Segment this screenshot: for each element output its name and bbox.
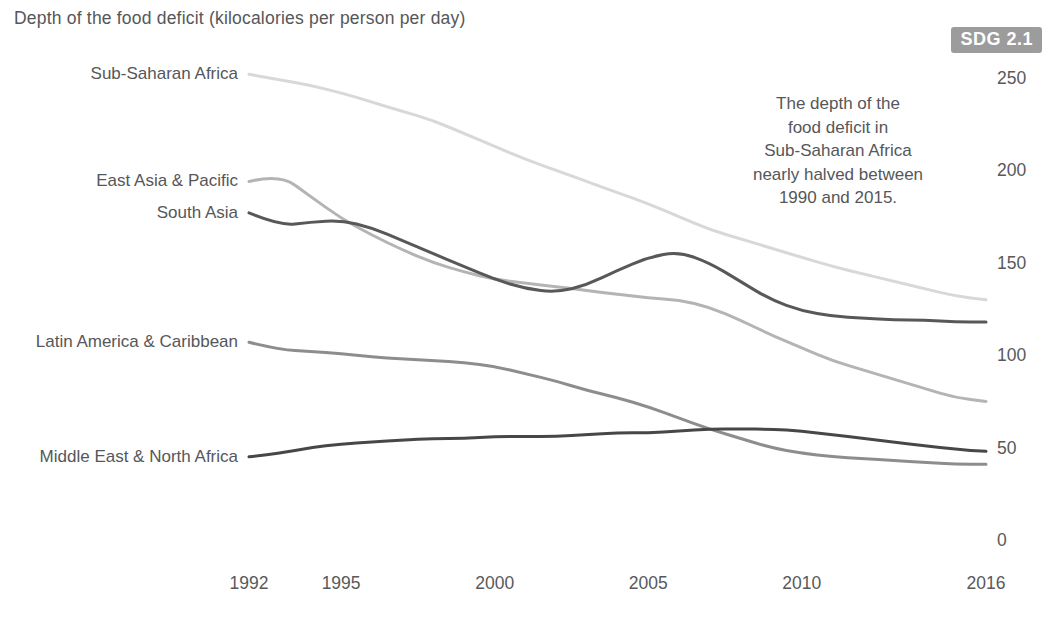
chart-annotation: The depth of the food deficit in Sub-Sah…	[738, 92, 938, 210]
series-label-east-asia-pacific: East Asia & Pacific	[0, 170, 238, 192]
series-label-latin-america-caribbean: Latin America & Caribbean	[0, 331, 238, 353]
sdg-badge: SDG 2.1	[951, 27, 1042, 53]
y-tick-label: 250	[997, 68, 1026, 88]
x-tick-label: 1995	[322, 573, 361, 593]
annotation-line: Sub-Saharan Africa	[738, 139, 938, 163]
x-tick-label: 2010	[782, 573, 821, 593]
annotation-line: 1990 and 2015.	[738, 186, 938, 210]
x-tick-label: 1992	[230, 573, 269, 593]
annotation-line: food deficit in	[738, 116, 938, 140]
y-tick-label: 200	[997, 160, 1026, 180]
series-label-middle-east-north-africa: Middle East & North Africa	[0, 446, 238, 468]
line-middle-east-and-north-africa	[249, 429, 986, 457]
annotation-line: The depth of the	[738, 92, 938, 116]
line-latin-america-and-caribbean	[249, 342, 986, 464]
x-tick-label: 2016	[967, 573, 1006, 593]
y-tick-label: 100	[997, 345, 1026, 365]
chart-title: Depth of the food deficit (kilocalories …	[14, 8, 465, 29]
x-tick-label: 2005	[629, 573, 668, 593]
series-label-south-asia: South Asia	[0, 202, 238, 224]
y-tick-label: 150	[997, 253, 1026, 273]
line-east-asia-and-pacific	[249, 179, 986, 402]
annotation-line: nearly halved between	[738, 163, 938, 187]
y-tick-label: 0	[997, 530, 1007, 550]
series-label-sub-saharan-africa: Sub-Saharan Africa	[0, 63, 238, 85]
food-deficit-chart: Depth of the food deficit (kilocalories …	[0, 0, 1048, 619]
y-tick-label: 50	[997, 438, 1017, 458]
x-tick-label: 2000	[475, 573, 514, 593]
